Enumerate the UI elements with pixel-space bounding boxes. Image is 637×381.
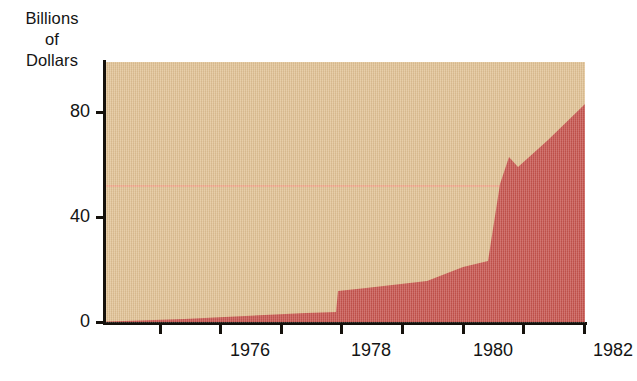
x-tick-1977: [280, 325, 283, 334]
x-tick-1979: [401, 325, 404, 334]
y-axis-title-line-1: Billions: [2, 8, 102, 29]
area-series-path: [106, 104, 585, 323]
y-axis-title-line-3: Dollars: [2, 50, 102, 71]
x-tick-label-1982: 1982: [578, 340, 637, 360]
x-tick-label-1980: 1980: [458, 340, 528, 360]
x-tick-1975: [159, 325, 162, 334]
x-tick-label-1978: 1978: [336, 340, 406, 360]
y-tick-label-40: 40: [30, 207, 90, 225]
x-axis-line: [103, 322, 587, 325]
y-axis-title-line-2: of: [2, 29, 102, 50]
y-tick-40: [96, 216, 104, 219]
x-tick-1981: [522, 325, 525, 334]
x-tick-label-1976: 1976: [215, 340, 285, 360]
x-tick-1976: [219, 325, 222, 334]
area-series-svg: [106, 62, 585, 323]
y-tick-80: [96, 111, 104, 114]
y-axis-line: [103, 60, 106, 325]
plot-area: [106, 62, 585, 323]
y-tick-label-80: 80: [30, 102, 90, 120]
x-tick-1980: [462, 325, 465, 334]
y-tick-label-0: 0: [30, 312, 90, 330]
y-tick-0: [96, 321, 104, 324]
y-axis-title: Billions of Dollars: [2, 8, 102, 71]
x-tick-1982: [583, 325, 586, 334]
x-tick-1978: [340, 325, 343, 334]
